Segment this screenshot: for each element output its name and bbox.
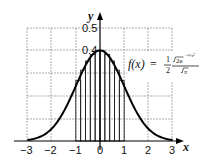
x-tick: 2	[145, 144, 151, 156]
formula-num: 1	[166, 55, 170, 64]
x-axis-label: x	[182, 140, 189, 154]
x-tick: −2	[44, 144, 57, 156]
x-tick: −3	[20, 144, 33, 156]
formula-den: 2	[166, 66, 170, 75]
formula-exp: −½x²	[185, 53, 195, 58]
y-axis-arrow-icon	[97, 12, 103, 20]
formula-eq: =	[150, 57, 157, 71]
x-tick: 3	[169, 144, 175, 156]
formula-annotation: f(x) = 1 2 2e −½x² π	[127, 52, 199, 82]
riemann-rectangle	[119, 81, 124, 141]
normal-density-chart: x y −3 −2 −1 0 1 2 3 0.5 0.4 f(x) = 1 2 …	[0, 0, 214, 164]
riemann-rectangle	[105, 54, 110, 141]
formula-sqrt-top: 2e	[176, 57, 183, 65]
y-tick-0.4: 0.4	[82, 44, 97, 56]
y-tick-0.5: 0.5	[82, 22, 97, 34]
axes	[14, 16, 180, 150]
riemann-rectangle	[81, 70, 86, 141]
y-axis-label: y	[86, 9, 94, 23]
riemann-rectangle	[115, 70, 120, 141]
formula-lhs: f(x)	[128, 57, 145, 71]
x-tick: −1	[69, 144, 82, 156]
x-tick-labels: −3 −2 −1 0 1 2 3	[20, 144, 175, 156]
x-tick: 1	[121, 144, 127, 156]
riemann-rectangle	[76, 81, 81, 141]
x-tick: 0	[97, 144, 103, 156]
riemann-rectangle	[90, 54, 95, 141]
